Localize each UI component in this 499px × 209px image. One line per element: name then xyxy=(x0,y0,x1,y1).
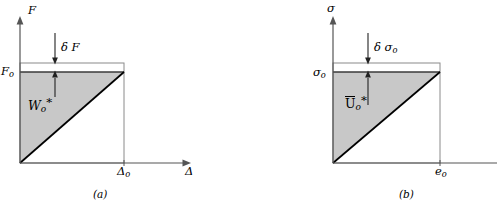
panel-a-x-value-label: Δo xyxy=(117,166,130,179)
panel-a-drawing xyxy=(17,16,191,166)
panel-a-area-symbol: W xyxy=(28,98,41,113)
panel-b-increment-symbol: δ σ xyxy=(374,40,392,54)
panel-b-y-value-label: σo xyxy=(313,67,326,80)
panel-b-x-value-label: eo xyxy=(435,166,447,179)
panel-b-y-value-subscript: o xyxy=(321,70,326,80)
panel-b-y-value-symbol: σ xyxy=(313,65,321,79)
panel-b-x-value-symbol: e xyxy=(435,164,442,178)
panel-a-y-value-subscript: o xyxy=(9,69,14,79)
panel-a-x-axis-label: Δ xyxy=(185,166,193,178)
panel-b-y-axis-label: σ xyxy=(327,3,335,15)
panel-b-increment-label: δ σo xyxy=(374,42,397,55)
panel-a-caption: (a) xyxy=(93,189,107,200)
panel-b-caption: (b) xyxy=(399,189,414,200)
panel-a-area-label: Wo* xyxy=(28,97,52,114)
panel-a-y-axis-arrow xyxy=(17,16,24,25)
panel-a-increment-label: δ F xyxy=(61,42,80,54)
panel-a-y-value-symbol: F xyxy=(1,64,9,78)
panel-b-drawing xyxy=(330,16,497,166)
panel-b-increment-subscript: o xyxy=(392,45,397,55)
panel-a-x-value-subscript: o xyxy=(125,169,130,179)
figure-drawing xyxy=(0,0,499,209)
panel-b-y-axis-arrow xyxy=(330,16,337,25)
panel-a-y-value-label: Fo xyxy=(1,66,14,79)
panel-b-area-label: Uo* xyxy=(345,95,367,112)
panel-b-area-symbol: U xyxy=(345,98,356,111)
panel-b-x-value-subscript: o xyxy=(442,169,447,179)
panel-a-area-star: * xyxy=(46,95,52,109)
panel-b-area-star: * xyxy=(361,93,367,107)
panel-a-y-axis-label: F xyxy=(28,5,36,17)
figure-container: F Fo δ F Wo* Δo Δ (a) σ σo δ σo Uo* eo (… xyxy=(0,0,499,209)
